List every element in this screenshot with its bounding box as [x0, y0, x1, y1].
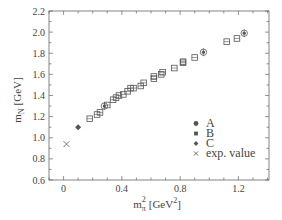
y-tick-label: 1.0 — [33, 132, 46, 143]
x-marker-icon — [63, 141, 69, 147]
diamond-marker-icon — [194, 141, 199, 146]
legend-item: exp. value — [194, 146, 256, 160]
y-tick-label: 0.8 — [33, 153, 46, 164]
y-tick-label: 1.8 — [33, 48, 46, 59]
data-points — [63, 29, 247, 147]
y-tick-label: 1.6 — [33, 69, 46, 80]
scatter-plot: 00.40.81.2 0.60.81.01.21.41.61.82.02.2 A… — [0, 0, 282, 220]
square-marker-icon — [194, 132, 198, 136]
chart-container: 00.40.81.2 0.60.81.01.21.41.61.82.02.2 A… — [0, 0, 282, 220]
legend-label: exp. value — [206, 146, 255, 160]
x-axis-label: mπ2[GeV2] — [133, 195, 181, 213]
x-tick-label: 0 — [61, 183, 66, 194]
y-tick-label: 2.2 — [33, 6, 46, 17]
x-tick-label: 0.4 — [116, 183, 129, 194]
y-axis-label: mN[GeV] — [11, 77, 26, 122]
y-tick-label: 0.6 — [33, 175, 46, 186]
x-tick-label: 1.2 — [232, 183, 245, 194]
diamond-marker-icon — [75, 124, 81, 130]
x-tick-label: 0.8 — [174, 183, 187, 194]
circle-marker-icon — [202, 51, 205, 54]
x-marker-icon — [194, 151, 198, 155]
circle-marker-icon — [194, 121, 199, 126]
y-tick-label: 2.0 — [33, 27, 46, 38]
circle-marker-icon — [243, 32, 246, 35]
y-tick-label: 1.4 — [33, 90, 46, 101]
legend: ABCexp. value — [194, 116, 256, 160]
y-tick-label: 1.2 — [33, 111, 46, 122]
